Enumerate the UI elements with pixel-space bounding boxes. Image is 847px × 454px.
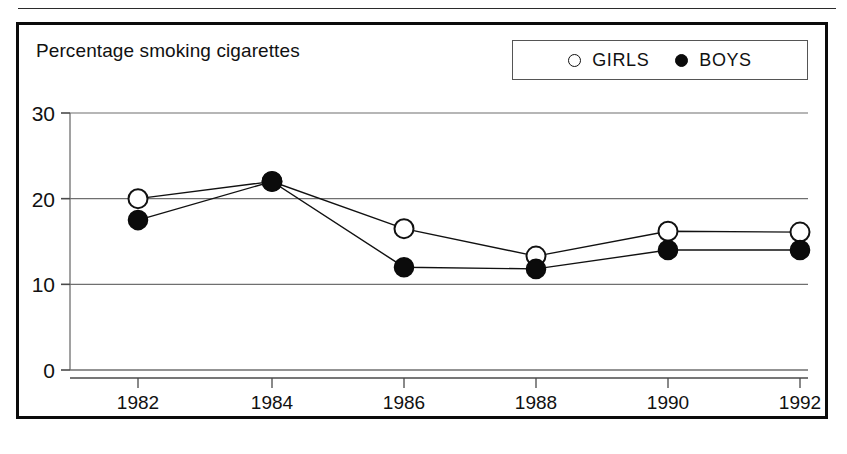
top-divider-rule [18,8,836,9]
legend-label-boys: BOYS [699,50,751,71]
legend-entry-girls: GIRLS [568,50,649,71]
open-circle-icon [568,54,581,67]
legend-label-girls: GIRLS [592,50,649,71]
filled-circle-icon [675,54,688,67]
chart-title: Percentage smoking cigarettes [36,40,300,62]
legend-entry-boys: BOYS [675,50,751,71]
chart-frame [16,22,828,419]
chart-legend: GIRLS BOYS [512,40,808,80]
figure: Percentage smoking cigarettes GIRLS BOYS… [0,0,847,454]
